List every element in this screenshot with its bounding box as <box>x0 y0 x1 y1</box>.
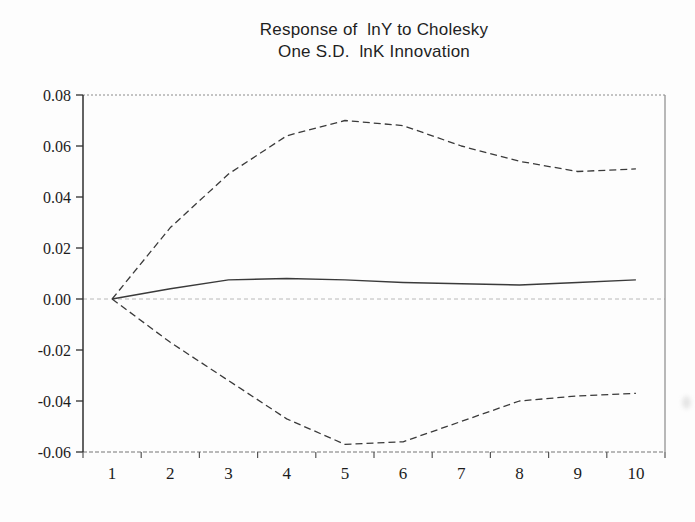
y-tick-label: -0.06 <box>38 444 71 461</box>
x-tick-label: 2 <box>166 464 175 483</box>
y-tick-label: -0.04 <box>38 393 71 410</box>
y-tick-label: 0.04 <box>43 189 71 206</box>
y-tick-label: 0.08 <box>43 87 71 104</box>
x-tick-label: 8 <box>515 464 524 483</box>
x-tick-label: 1 <box>108 464 117 483</box>
chart-title-line-1: Response of lnY to Cholesky <box>83 20 665 40</box>
x-tick-label: 6 <box>399 464 408 483</box>
y-tick-label: 0.00 <box>43 291 71 308</box>
scan-artifact-speck <box>682 396 691 409</box>
y-tick-label: -0.02 <box>38 342 71 359</box>
x-tick-label: 3 <box>224 464 233 483</box>
series-lower-band <box>112 299 636 444</box>
x-tick-label: 9 <box>573 464 582 483</box>
series-upper-band <box>112 121 636 300</box>
x-tick-label: 5 <box>341 464 350 483</box>
irf-chart-figure: Response of lnY to Cholesky One S.D. lnK… <box>0 0 695 522</box>
chart-title-line-2: One S.D. lnK Innovation <box>83 42 665 62</box>
irf-plot-canvas: 0.080.060.040.020.00-0.02-0.04-0.0612345… <box>0 0 695 522</box>
y-tick-label: 0.02 <box>43 240 71 257</box>
x-tick-label: 4 <box>282 464 291 483</box>
series-response <box>112 279 636 299</box>
y-tick-label: 0.06 <box>43 138 71 155</box>
x-tick-label: 10 <box>627 464 644 483</box>
x-tick-label: 7 <box>457 464 466 483</box>
